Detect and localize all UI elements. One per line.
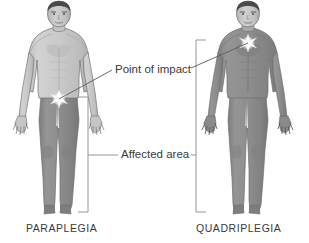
caption-quadriplegia: QUADRIPLEGIA: [196, 222, 281, 234]
quadriplegia-lower-body-affected: [228, 96, 268, 214]
anatomy-illustration: [0, 0, 309, 243]
annotation-affected-area: Affected area: [121, 148, 189, 160]
bracket-quadriplegia-affected-area: [196, 40, 206, 212]
diagram-canvas: Point of impact Affected area PARAPLEGIA…: [0, 0, 309, 243]
caption-paraplegia: PARAPLEGIA: [26, 222, 97, 234]
paraplegia-lower-body-affected: [39, 96, 79, 214]
figure-quadriplegia: [202, 1, 293, 214]
quadriplegia-left-hand: [202, 116, 217, 135]
quadriplegia-upper-body-affected: [215, 22, 280, 98]
quadriplegia-right-hand: [278, 116, 293, 135]
paraplegia-head: [47, 1, 70, 27]
figure-paraplegia: [13, 1, 104, 214]
bracket-paraplegia-affected-area: [78, 97, 88, 212]
annotation-point-of-impact: Point of impact: [115, 63, 191, 75]
quadriplegia-head: [236, 1, 259, 27]
paraplegia-right-hand: [89, 116, 104, 135]
paraplegia-left-hand: [13, 116, 28, 135]
